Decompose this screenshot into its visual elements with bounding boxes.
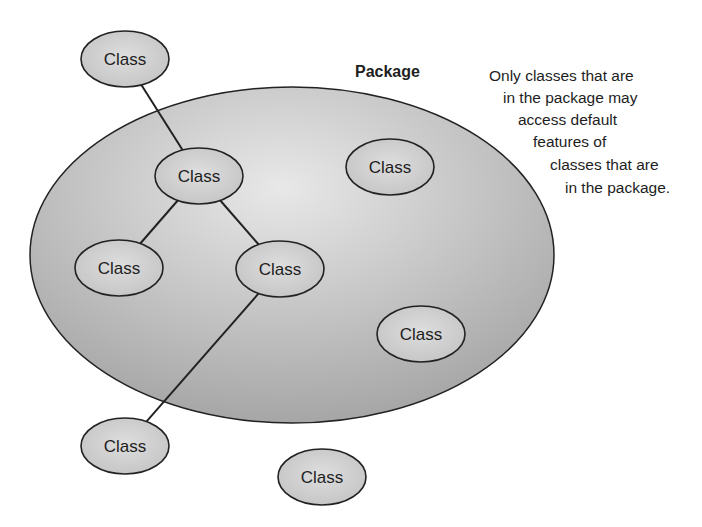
class-label: Class [301, 468, 344, 487]
class-label: Class [400, 325, 443, 344]
class-label: Class [104, 437, 147, 456]
class-top-node: Class [81, 31, 169, 87]
class-label: Class [104, 50, 147, 69]
note-line-4: features of [533, 132, 606, 152]
note-line-3: access default [518, 110, 617, 130]
class-bottom-left-node: Class [81, 418, 169, 474]
class-label: Class [98, 259, 141, 278]
class-right-top-node: Class [346, 139, 434, 195]
class-center-node: Class [236, 241, 324, 297]
note-line-2: in the package may [503, 88, 637, 108]
note-line-1: Only classes that are [489, 66, 634, 86]
class-right-bottom-node: Class [377, 306, 465, 362]
class-middle-node: Class [155, 148, 243, 204]
package-label: Package [355, 63, 420, 80]
class-label: Class [178, 167, 221, 186]
class-left-node: Class [75, 240, 163, 296]
class-bottom-node: Class [278, 449, 366, 505]
note-line-6: in the package. [565, 178, 670, 198]
class-label: Class [259, 260, 302, 279]
class-label: Class [369, 158, 412, 177]
note-line-5: classes that are [550, 155, 659, 175]
